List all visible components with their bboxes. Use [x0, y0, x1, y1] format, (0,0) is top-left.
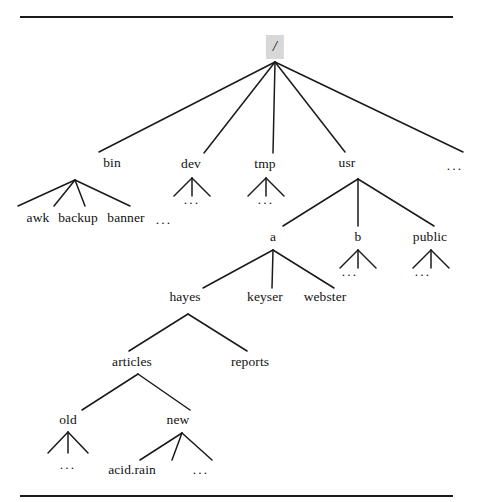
tree-node-usr: usr	[339, 156, 356, 170]
tree-edge-a-to-hayes	[203, 250, 273, 288]
tree-edge-new-to-new_c2	[172, 433, 182, 460]
tree-edge-a-to-keyser	[272, 250, 273, 288]
tree-node-bin_more: ...	[156, 213, 173, 227]
tree-edge-root-to-root_more	[275, 62, 463, 152]
tree-node-articles: articles	[112, 355, 152, 369]
filesystem-tree-figure: /bindevtmpusr...awkbackupbanner.........…	[0, 0, 487, 502]
tree-node-bin: bin	[103, 156, 121, 170]
tree-edge-root-to-dev	[204, 62, 275, 153]
tree-edge-bin-to-banner	[75, 180, 85, 206]
top-horizontal-rule	[20, 16, 453, 18]
tree-edge-bin-to-bin_more	[75, 180, 130, 206]
tree-node-a: a	[270, 230, 276, 244]
tree-edge-articles-to-new	[138, 374, 190, 410]
tree-node-root: /	[266, 35, 284, 59]
tree-edge-root-to-usr	[275, 62, 345, 152]
tree-node-acidrain: acid.rain	[108, 463, 156, 477]
tree-edge-a-to-webster	[273, 250, 334, 288]
tree-node-dev_more: ...	[184, 193, 201, 207]
tree-node-tmp: tmp	[254, 157, 275, 171]
tree-edge-root-to-tmp	[273, 62, 275, 153]
tree-edge-new-to-acidrain	[140, 433, 182, 460]
tree-node-b_more: ...	[342, 265, 359, 279]
tree-node-hayes: hayes	[169, 290, 200, 304]
tree-node-new_more: ...	[193, 463, 210, 477]
tree-node-banner: banner	[107, 211, 144, 225]
tree-edge-b-to-b_c3	[358, 250, 376, 268]
tree-node-old_more: ...	[60, 458, 77, 472]
tree-edge-bin-to-backup	[54, 180, 75, 206]
tree-edge-root-to-bin	[99, 62, 275, 152]
tree-node-backup: backup	[58, 211, 98, 225]
tree-edge-old-to-old_c3	[68, 432, 88, 453]
tree-node-pub_more: ...	[415, 265, 432, 279]
tree-node-awk: awk	[27, 211, 50, 225]
tree-node-public: public	[413, 230, 447, 244]
tree-edge-new-to-new_c3	[182, 433, 212, 460]
tree-edge-hayes-to-articles	[129, 314, 188, 351]
tree-node-reports: reports	[231, 355, 269, 369]
bottom-horizontal-rule	[20, 495, 453, 497]
tree-edge-public-to-p_c3	[431, 250, 449, 268]
tree-edge-old-to-old_c1	[48, 432, 68, 453]
tree-edge-articles-to-old	[82, 374, 138, 410]
tree-node-tmp_more: ...	[258, 193, 275, 207]
tree-node-b: b	[355, 230, 362, 244]
tree-edge-bin-to-awk	[18, 180, 75, 206]
tree-node-keyser: keyser	[247, 290, 283, 304]
tree-edge-usr-to-a	[283, 179, 358, 226]
tree-edge-usr-to-public	[358, 179, 434, 226]
tree-node-new: new	[167, 413, 190, 427]
tree-node-webster: webster	[304, 290, 347, 304]
tree-node-old: old	[59, 413, 77, 427]
tree-edge-hayes-to-reports	[188, 314, 247, 351]
tree-node-root_more: ...	[447, 159, 464, 173]
tree-node-dev: dev	[181, 157, 201, 171]
